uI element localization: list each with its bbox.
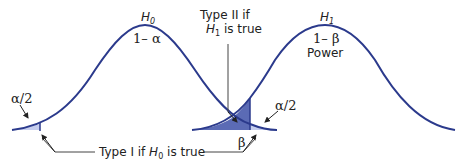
power-label: Power — [307, 46, 343, 60]
type1-label: Type I if H0 is true — [98, 145, 205, 161]
type2-label-line2: H1 is true — [206, 22, 262, 38]
hypothesis-diagram: H0 1– α H1 1– β Power Type II if H1 is t… — [0, 0, 463, 166]
h0-region-label: 1– α — [133, 31, 161, 46]
alpha-left-arrow — [20, 105, 28, 118]
h0-label: H0 — [141, 10, 155, 26]
alpha-right-label: α/2 — [275, 98, 296, 113]
h1-label: H1 — [320, 10, 334, 26]
beta-label: β — [238, 135, 246, 150]
alpha-left-label: α/2 — [11, 91, 32, 106]
h1-region-label: 1– β — [313, 31, 339, 46]
type2-label-line1: Type II if — [199, 8, 251, 22]
